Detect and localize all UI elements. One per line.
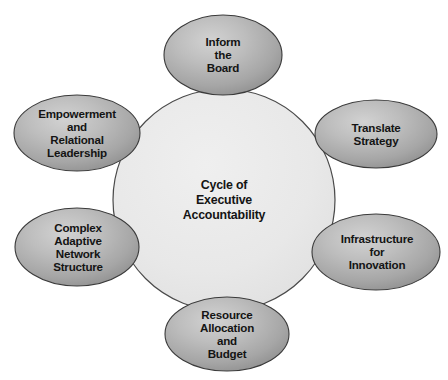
cycle-of-executive-accountability-diagram: Cycle of Executive Accountability Inform… bbox=[0, 0, 448, 380]
node-resource-allocation-and-budget bbox=[165, 297, 289, 371]
node-translate-strategy bbox=[315, 100, 437, 168]
hub-circle bbox=[113, 89, 335, 311]
diagram-canvas bbox=[0, 0, 448, 380]
node-infrastructure-for-innovation bbox=[312, 214, 440, 290]
node-empowerment-and-relational-leadership bbox=[14, 95, 140, 171]
node-complex-adaptive-network-structure bbox=[15, 208, 139, 286]
node-inform-the-board bbox=[164, 15, 282, 95]
